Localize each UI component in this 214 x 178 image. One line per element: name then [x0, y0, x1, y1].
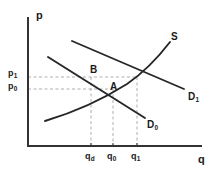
demand-curve-d0-label-sub: 0 [154, 124, 158, 131]
y-tick-label-p1: p1 [8, 69, 17, 78]
demand-curve-d1-label-sub: 1 [195, 96, 199, 103]
y-tick-label-p0: p0 [8, 82, 17, 91]
point-label-a: A [110, 82, 117, 92]
x-axis-label: q [198, 154, 205, 165]
supply-demand-chart: p q p1 p0 qd q0 q1 S D1 D0 A B [0, 0, 214, 178]
y-tick-label-p0-main: p [8, 81, 14, 91]
x-tick-label-qd-sub: d [91, 155, 95, 162]
x-tick-label-q0-main: q [107, 151, 113, 161]
x-tick-label-q1-sub: 1 [137, 155, 141, 162]
x-tick-label-qd: qd [85, 152, 95, 161]
supply-curve-label: S [171, 32, 178, 42]
demand-curve-d1-label: D1 [188, 92, 199, 102]
point-label-b: B [90, 65, 97, 75]
y-axis-label: p [36, 10, 43, 21]
x-tick-label-q0: q0 [107, 152, 116, 161]
x-tick-label-q1-main: q [131, 151, 137, 161]
x-tick-label-q0-sub: 0 [113, 155, 117, 162]
y-tick-label-p1-sub: 1 [14, 72, 18, 79]
x-tick-label-q1: q1 [131, 152, 140, 161]
x-tick-label-qd-main: q [85, 151, 91, 161]
y-tick-label-p0-sub: 0 [14, 85, 18, 92]
y-tick-label-p1-main: p [8, 68, 14, 78]
demand-curve-d0-label: D0 [147, 120, 158, 130]
supply-curve [45, 42, 170, 121]
